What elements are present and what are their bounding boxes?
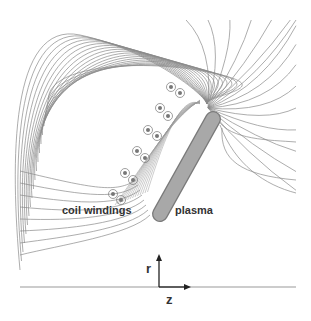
plasma-label: plasma (175, 204, 213, 216)
r-arrowhead-icon (156, 254, 162, 261)
z-axis-label: z (166, 292, 173, 307)
coil-winding-core (166, 114, 170, 118)
axis-arrows (156, 254, 191, 290)
coil-winding-core (123, 171, 127, 175)
field-lines-left (15, 34, 242, 270)
coil-winding-core (178, 91, 182, 95)
z-arrowhead-icon (184, 284, 191, 290)
coil-winding-core (119, 198, 123, 202)
r-axis-label: r (146, 261, 151, 276)
coil-winding-core (155, 134, 159, 138)
coil-winding-core (169, 85, 173, 89)
coil-winding-core (111, 192, 115, 196)
coil-winding-core (131, 178, 135, 182)
coil-winding-core (146, 128, 150, 132)
coil-winding-core (143, 156, 147, 160)
coil-windings-label: coil windings (62, 204, 132, 216)
coil-winding-core (158, 106, 162, 110)
field-lines-right (186, 20, 296, 193)
field-line-diagram (0, 0, 311, 321)
coil-winding-core (135, 149, 139, 153)
